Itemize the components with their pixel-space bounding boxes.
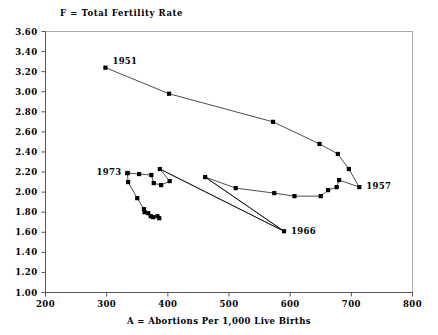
series-path [105,68,359,232]
data-point-marker [149,173,153,177]
y-tick-label: 1.40 [15,247,37,257]
x-axis-tick-labels: 200300400500600700800 [36,299,422,309]
y-tick-label: 1.00 [15,288,37,298]
axis-ticks [42,32,413,297]
data-point-marker [335,185,339,189]
data-markers [103,66,361,234]
x-tick-label: 200 [36,299,55,309]
y-tick-label: 1.20 [15,267,37,277]
data-point-marker [336,152,340,156]
data-point-marker [158,167,162,171]
data-point-marker [135,196,139,200]
y-tick-label: 3.00 [15,87,37,97]
data-point-marker [326,188,330,192]
plot-frame [46,32,413,293]
x-axis-label: A = Abortions Per 1,000 Live Births [0,316,438,326]
data-point-marker [126,180,130,184]
data-lines [105,68,359,232]
data-point-marker [167,92,171,96]
y-tick-label: 2.60 [15,127,37,137]
y-tick-label: 2.00 [15,187,37,197]
data-point-marker [203,175,207,179]
data-point-marker [357,185,361,189]
data-point-marker [142,210,146,214]
y-tick-label: 1.60 [15,227,37,237]
data-point-marker [152,181,156,185]
y-axis-tick-labels: 1.001.201.401.601.802.002.202.402.602.80… [15,27,37,298]
y-tick-label: 1.80 [15,207,37,217]
data-point-marker [137,172,141,176]
data-point-marker [125,171,129,175]
y-tick-label: 2.40 [15,147,37,157]
data-point-marker [337,178,341,182]
y-tick-label: 2.80 [15,107,37,117]
year-annotation-1966: 1966 [291,226,316,236]
connector-line [205,177,284,231]
y-tick-label: 3.40 [15,47,37,57]
data-point-marker [271,120,275,124]
data-point-marker [103,66,107,70]
x-tick-label: 400 [158,299,177,309]
data-point-marker [234,186,238,190]
x-tick-label: 300 [97,299,116,309]
data-point-marker [317,142,321,146]
x-tick-label: 500 [220,299,239,309]
data-point-marker [292,194,296,198]
y-tick-label: 3.60 [15,27,37,37]
connector-lines [160,169,284,231]
data-point-marker [159,183,163,187]
data-point-marker [272,191,276,195]
scatter-line-plot: 1.001.201.401.601.802.002.202.402.602.80… [0,0,438,335]
x-tick-label: 600 [281,299,300,309]
x-tick-label: 800 [403,299,422,309]
data-point-marker [347,167,351,171]
point-annotations: 1951195719661973 [97,56,392,237]
chart-container: F = Total Fertility Rate 1.001.201.401.6… [0,0,438,335]
data-point-marker [282,229,286,233]
year-annotation-1973: 1973 [97,167,122,177]
data-point-marker [151,215,155,219]
data-point-marker [168,179,172,183]
data-point-marker [319,194,323,198]
y-tick-label: 3.20 [15,67,37,77]
data-point-marker [157,216,161,220]
year-annotation-1951: 1951 [112,56,137,66]
y-tick-label: 2.20 [15,167,37,177]
connector-line [160,169,284,231]
x-tick-label: 700 [342,299,361,309]
year-annotation-1957: 1957 [366,181,391,191]
